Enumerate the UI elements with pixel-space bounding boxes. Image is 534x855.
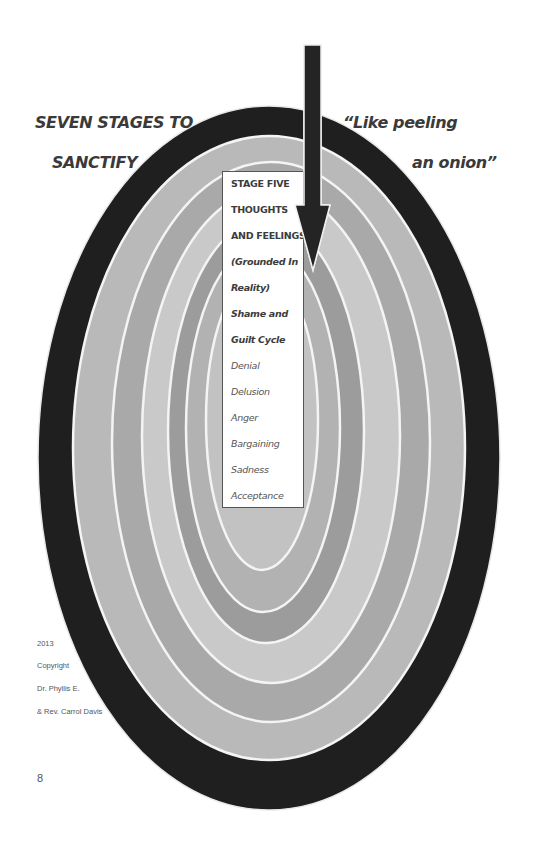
quote-line-2: an onion” bbox=[412, 153, 497, 172]
stage-line-10: Bargaining bbox=[231, 438, 279, 449]
quote-line-1: “Like peeling bbox=[343, 113, 457, 132]
stage-line-0: STAGE FIVE bbox=[231, 178, 289, 189]
stage-line-6: Guilt Cycle bbox=[231, 334, 285, 345]
title-line-1: SEVEN STAGES TO bbox=[35, 113, 193, 132]
stage-line-3: (Grounded In bbox=[231, 256, 298, 267]
stage-line-5: Shame and bbox=[231, 308, 288, 319]
stage-line-12: Acceptance bbox=[231, 490, 283, 501]
stage-five-box: STAGE FIVE THOUGHTS AND FEELINGS (Ground… bbox=[222, 171, 304, 508]
copyright-author-1: Dr. Phyllis E. bbox=[37, 684, 80, 693]
stage-line-7: Denial bbox=[231, 360, 259, 371]
stage-line-9: Anger bbox=[231, 412, 258, 423]
copyright-label: Copyright bbox=[37, 661, 69, 670]
stage-line-11: Sadness bbox=[231, 464, 269, 475]
stage-line-1: THOUGHTS bbox=[231, 204, 288, 215]
stage-line-2: AND FEELINGS bbox=[231, 230, 306, 241]
copyright-author-2: & Rev. Carrol Davis bbox=[37, 707, 102, 716]
copyright-year: 2013 bbox=[37, 639, 54, 648]
stage-line-4: Reality) bbox=[231, 282, 270, 293]
stage-line-8: Delusion bbox=[231, 386, 270, 397]
title-line-2: SANCTIFY bbox=[52, 153, 137, 172]
page-number: 8 bbox=[37, 772, 43, 784]
